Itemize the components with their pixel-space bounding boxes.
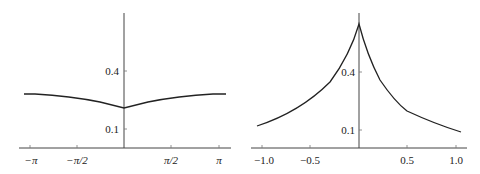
left-y-tick-label: 0.1 bbox=[105, 123, 119, 135]
right-chart: 0.4 0.1 −1.0 −0.5 0.5 1.0 bbox=[251, 13, 467, 166]
right-x-tick-label: 1.0 bbox=[449, 154, 463, 166]
left-curve bbox=[24, 94, 226, 108]
left-x-tick-label: π/2 bbox=[164, 154, 179, 166]
right-y-tick-label: 0.4 bbox=[341, 66, 355, 78]
left-x-tick-label: π bbox=[216, 154, 222, 166]
figure: 0.4 0.1 −π −π/2 π/2 π 0.4 0.1 −1.0 −0.5 … bbox=[0, 0, 480, 174]
right-x-tick-label: −0.5 bbox=[300, 154, 320, 166]
left-x-tick-label: −π/2 bbox=[66, 154, 88, 166]
right-y-tick-label: 0.1 bbox=[341, 124, 355, 136]
left-x-tick-label: −π bbox=[25, 154, 38, 166]
right-x-tick-label: 0.5 bbox=[400, 154, 414, 166]
right-x-tick-label: −1.0 bbox=[254, 154, 274, 166]
left-y-tick-label: 0.4 bbox=[105, 65, 119, 77]
left-chart: 0.4 0.1 −π −π/2 π/2 π bbox=[19, 13, 231, 166]
